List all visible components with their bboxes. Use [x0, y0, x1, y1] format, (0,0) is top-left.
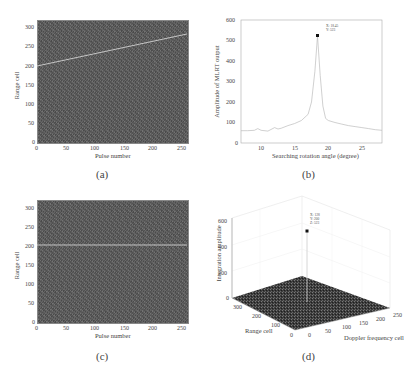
caption-d: (d)	[302, 350, 315, 362]
y-tick: 150	[25, 262, 34, 268]
x-tick: 20	[325, 145, 331, 151]
y-tick: 200	[25, 63, 34, 69]
x-tick: 200	[376, 316, 385, 322]
z-tick: 600	[218, 218, 227, 224]
y-tick: 100	[25, 101, 34, 107]
z-axis-label: Integration amplitude	[215, 225, 222, 281]
x-tick: 50	[63, 145, 69, 151]
y-tick: 200	[226, 99, 235, 105]
caption-c: (c)	[96, 350, 108, 362]
x-axis-label: Doppler frequency cell	[344, 334, 404, 341]
x-tick: 200	[148, 325, 157, 331]
y-tick: 500	[226, 37, 235, 43]
y-tick: 200	[252, 313, 261, 319]
x-axis-label: Pulse number	[95, 152, 131, 159]
y-tick: 300	[25, 24, 34, 30]
y-tick: 100	[226, 119, 235, 125]
x-tick: 150	[359, 320, 368, 326]
y-tick: 300	[226, 78, 235, 84]
y-tick: 600	[226, 17, 235, 23]
x-tick: 0	[308, 332, 311, 338]
x-tick: 0	[35, 325, 38, 331]
x-tick: 100	[90, 145, 99, 151]
y-tick: 250	[25, 224, 34, 230]
y-tick: 50	[28, 300, 34, 306]
y-tick: 100	[25, 281, 34, 287]
y-axis-label: Range cell	[245, 327, 273, 334]
x-tick: 150	[120, 145, 129, 151]
y-tick: 400	[226, 58, 235, 64]
x-tick: 50	[325, 328, 331, 334]
x-tick: 150	[120, 325, 129, 331]
y-tick: 300	[233, 304, 242, 310]
caption-b: (b)	[302, 168, 315, 180]
target-trace-a	[37, 20, 187, 142]
y-tick: 200	[25, 243, 34, 249]
x-tick: 25	[359, 145, 365, 151]
y-axis-label: Range cell	[13, 72, 20, 100]
x-axis-label: Pulse number	[95, 332, 131, 339]
peak-annotation-y: Y: 523	[326, 28, 335, 32]
mlrt-line-chart	[241, 20, 382, 143]
caption-a: (a)	[96, 168, 108, 180]
y-axis-label: Range cell	[13, 252, 20, 280]
x-tick: 15	[292, 145, 298, 151]
x-tick: 100	[90, 325, 99, 331]
x-tick: 10	[258, 145, 264, 151]
y-tick: 150	[25, 82, 34, 88]
x-tick: 250	[177, 325, 186, 331]
y-axis-label: Amplitude of MLRT output	[213, 45, 220, 117]
y-tick: 300	[25, 205, 34, 211]
y-tick: 0	[235, 140, 238, 146]
x-tick: 250	[393, 312, 402, 318]
x-tick: 200	[148, 145, 157, 151]
target-trace-c	[37, 200, 187, 322]
x-axis-label: Searching rotation angle (degree)	[272, 152, 359, 159]
x-tick: 0	[35, 145, 38, 151]
x-tick: 50	[63, 325, 69, 331]
x-tick: 100	[342, 324, 351, 330]
z-tick: 0	[226, 295, 229, 301]
y-tick: 250	[25, 43, 34, 49]
x-tick: 250	[177, 145, 186, 151]
peak-annotation-z: Z: 523	[310, 221, 319, 225]
y-tick: 50	[28, 120, 34, 126]
y-tick: 0	[290, 332, 293, 338]
